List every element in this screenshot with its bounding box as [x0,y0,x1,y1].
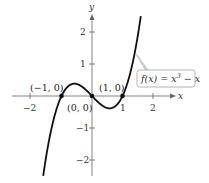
function-callout: f(x) = x3 − x [136,54,201,87]
point-label-0: (0, 0) [67,102,93,113]
y-tick-label: −1 [76,123,89,133]
y-axis-arrow-icon [90,14,95,20]
point-label-neg1: (−1, 0) [30,82,64,93]
point-1-0 [120,94,125,99]
function-graph: x y −2 1 2 2 1 −1 −2 (−1, 0) (0, 0) (1, … [0,0,209,183]
function-label: f(x) = x3 − x [140,72,201,84]
x-axis-label: x [178,91,183,101]
point-neg1-0 [59,94,64,99]
y-tick-label: 2 [80,27,86,37]
point-label-1: (1, 0) [99,82,125,93]
y-tick-label: 1 [80,59,86,69]
y-axis-label: y [88,2,95,12]
x-tick-label: −2 [23,103,36,113]
x-tick-label: 2 [150,103,156,113]
x-tick-label: 1 [120,103,126,113]
x-axis-arrow-icon [170,94,176,99]
y-tick-label: −2 [76,155,89,165]
point-0-0 [90,94,95,99]
